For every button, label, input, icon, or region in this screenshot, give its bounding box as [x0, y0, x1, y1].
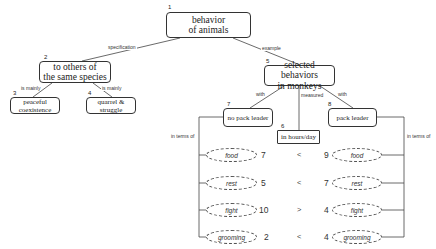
node-number-7: 7 — [227, 101, 230, 107]
value-pack-leader-grooming: 4 — [324, 232, 329, 242]
behavior-grooming-left[interactable]: grooming — [206, 230, 257, 244]
node-number-4: 4 — [88, 90, 91, 96]
node-peaceful-coexistence[interactable]: peaceful coexistence — [10, 97, 60, 114]
node-selected-behaviors-in-monkeys[interactable]: selected behaviors in monkeys — [264, 65, 335, 86]
node-pack-leader[interactable]: pack leader — [328, 108, 377, 127]
node-no-pack-leader[interactable]: no pack leader — [223, 108, 273, 127]
edge-label-is-mainly-4: is mainly — [101, 85, 122, 91]
behavior-food-left[interactable]: food — [206, 148, 257, 162]
behavior-food-right[interactable]: food — [332, 148, 382, 162]
node-behavior-of-animals[interactable]: behavior of animals — [166, 12, 251, 38]
operator-grooming: < — [297, 232, 301, 241]
edge-label-measured: measured — [300, 92, 324, 98]
node-number-1: 1 — [168, 4, 171, 10]
value-no-pack-leader-food: 7 — [261, 150, 266, 160]
node-number-2: 2 — [44, 54, 47, 60]
node-number-8: 8 — [328, 101, 331, 107]
operator-fight: > — [297, 205, 301, 214]
edge-label-with-8: with — [337, 91, 348, 97]
value-pack-leader-fight: 4 — [324, 205, 329, 215]
node-quarrel-and-struggle[interactable]: quarrel & struggle — [86, 97, 136, 114]
edge-label-in-terms-of-left: in terms of — [170, 133, 195, 139]
behavior-fight-right[interactable]: fight — [332, 203, 382, 217]
operator-food: < — [297, 150, 301, 159]
edge-label-in-terms-of-right: in terms of — [406, 133, 431, 139]
value-no-pack-leader-fight: 10 — [259, 205, 268, 215]
edge-label-example: example — [261, 45, 282, 51]
operator-rest: < — [297, 178, 301, 187]
edge-label-with-7: with — [255, 91, 266, 97]
behavior-rest-left[interactable]: rest — [206, 176, 257, 190]
node-number-6: 6 — [281, 123, 284, 129]
value-pack-leader-rest: 7 — [324, 178, 329, 188]
behavior-rest-right[interactable]: rest — [332, 176, 382, 190]
behavior-fight-left[interactable]: fight — [206, 203, 257, 217]
node-in-hours-per-day[interactable]: in hours/day — [277, 130, 320, 144]
node-to-others-of-same-species[interactable]: to others of the same species — [39, 61, 111, 83]
edge-label-is-mainly-3: is mainly — [20, 85, 41, 91]
value-no-pack-leader-grooming: 2 — [264, 232, 269, 242]
behavior-grooming-right[interactable]: grooming — [332, 230, 382, 244]
value-pack-leader-food: 9 — [324, 150, 329, 160]
value-no-pack-leader-rest: 5 — [261, 178, 266, 188]
edge-label-specification: specification — [107, 44, 137, 50]
node-number-3: 3 — [13, 90, 16, 96]
